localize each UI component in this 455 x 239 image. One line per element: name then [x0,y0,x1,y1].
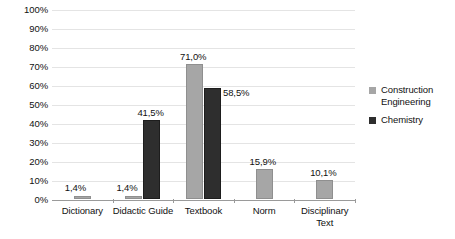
y-axis-tick-label: 10% [2,176,48,186]
plot-area: 1,4%1,4%41,5%71,0%58,5%15,9%10,1% [52,10,355,200]
axis-baseline [52,200,355,201]
bar [204,88,221,199]
bar-group: 10,1% [294,10,355,200]
legend-swatch-icon [369,87,376,94]
legend-label: Chemistry [381,114,423,126]
bar [74,196,91,199]
bar-value-label: 71,0% [180,52,206,62]
bar [256,169,273,199]
y-axis-tick-label: 70% [2,62,48,72]
bar-value-label: 1,4% [116,183,137,193]
bar [316,180,333,199]
legend-label: Construction Engineering [381,84,455,107]
x-axis-tick [355,199,356,203]
legend-swatch-icon [369,117,376,124]
x-axis-category-label: Didactic Guide [113,205,174,217]
y-axis-tick-label: 20% [2,157,48,167]
legend: Construction EngineeringChemistry [369,84,455,133]
bar-chart: 100%90%80%70%60%50%40%30%20%10%0% 1,4%1,… [0,0,455,239]
y-axis-tick-label: 90% [2,24,48,34]
bar-group: 1,4%41,5% [113,10,174,200]
y-axis-tick-label: 40% [2,119,48,129]
y-axis-tick-label: 80% [2,43,48,53]
x-axis-category-label: Textbook [173,205,234,217]
legend-item[interactable]: Chemistry [369,114,455,126]
bar-value-label: 1,4% [65,183,86,193]
y-axis-tick-label: 0% [2,195,48,205]
x-axis-category-label: Norm [234,205,295,217]
bar-value-label: 10,1% [310,168,336,178]
y-axis-tick-label: 60% [2,81,48,91]
bar [125,196,142,199]
x-axis-category-label: Dictionary [52,205,113,217]
legend-item[interactable]: Construction Engineering [369,84,455,107]
bar [186,64,203,199]
y-axis: 100%90%80%70%60%50%40%30%20%10%0% [0,10,48,200]
bar [143,120,160,199]
y-axis-tick-label: 30% [2,138,48,148]
bars-layer: 1,4%1,4%41,5%71,0%58,5%15,9%10,1% [52,10,355,200]
y-axis-tick-label: 50% [2,100,48,110]
bar-value-label: 41,5% [137,108,163,118]
bar-group: 15,9% [234,10,295,200]
bar-value-label: 15,9% [250,157,276,167]
bar-group: 1,4% [52,10,113,200]
y-axis-tick-label: 100% [2,5,48,15]
x-axis-category-label: Disciplinary Text [294,205,355,228]
bar-group: 71,0%58,5% [173,10,234,200]
